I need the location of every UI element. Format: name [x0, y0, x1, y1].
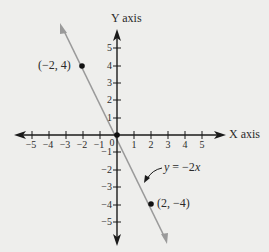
x-tick-label: 5: [200, 140, 205, 150]
point-label-2-neg4: (2, −4): [157, 198, 190, 208]
equation-label: y = −2x: [164, 162, 200, 172]
y-tick-label: 5: [107, 43, 112, 53]
x-axis-title: X axis: [229, 129, 260, 139]
equation-pointer: [147, 168, 162, 179]
y-tick-label: −3: [101, 182, 112, 192]
chart-svg: [0, 0, 269, 252]
x-tick-label: −5: [26, 140, 37, 150]
line-arrow-top-icon: [60, 23, 67, 34]
x-tick-label: 2: [149, 140, 154, 150]
equation-x: x: [195, 160, 200, 174]
x-axis: [14, 131, 226, 139]
x-tick-label: −4: [43, 140, 54, 150]
equation-rest: = −2: [169, 160, 195, 174]
chart-stage: Y axis X axis −5 −4 −3 −2 −1 0 1 2 3 4 5…: [0, 0, 269, 252]
y-tick-label: 3: [107, 78, 112, 88]
y-tick-label: 2: [107, 95, 112, 105]
y-tick-label: −4: [101, 200, 112, 210]
line-y-eq-neg2x: [60, 23, 168, 244]
point-2-neg4: [148, 201, 154, 207]
point-label-neg2-4: (−2, 4): [38, 60, 71, 70]
y-tick-label: −5: [101, 217, 112, 227]
x-tick-label: −3: [60, 140, 71, 150]
y-tick-label: −2: [101, 165, 112, 175]
x-tick-label: 3: [166, 140, 171, 150]
y-tick-label: −1: [101, 147, 112, 157]
x-tick-label: −2: [77, 140, 88, 150]
y-axis-title: Y axis: [111, 13, 142, 23]
x-tick-label: 1: [132, 140, 137, 150]
y-tick-label: 1: [107, 113, 112, 123]
point-origin: [114, 132, 120, 138]
x-tick-label: 4: [183, 140, 188, 150]
y-tick-label: 4: [107, 61, 112, 71]
line-arrow-bottom-icon: [161, 233, 168, 244]
point-neg2-4: [79, 63, 85, 69]
